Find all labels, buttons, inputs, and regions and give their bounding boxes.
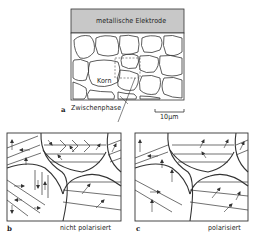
panel-c-caption: polarisiert bbox=[208, 225, 241, 232]
scale-bar-label: 10µm bbox=[160, 114, 179, 121]
ceramic-frame bbox=[71, 33, 184, 100]
grain-label: Korn bbox=[97, 78, 112, 85]
panel-c-polarized-domains bbox=[135, 133, 248, 221]
panel-a-letter: a bbox=[61, 106, 66, 113]
panel-b-caption: nicht polarisiert bbox=[60, 225, 111, 232]
interphase-label: Zwischenphase bbox=[71, 105, 121, 112]
panel-b-unpolarized-domains bbox=[7, 133, 121, 221]
scale-bar bbox=[155, 109, 184, 112]
ferroelectric-domain-diagram bbox=[0, 0, 257, 242]
panel-c-letter: c bbox=[136, 225, 140, 232]
panel-b-letter: b bbox=[7, 225, 12, 232]
electrode-label: metallische Elektrode bbox=[96, 18, 166, 25]
